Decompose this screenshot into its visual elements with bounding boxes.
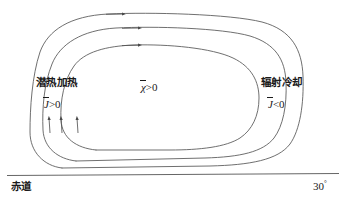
label-center-chi: χ>0 [141,81,158,94]
latent-heating-symbol: J [44,98,49,111]
middle-streamline [43,27,286,161]
degree-sign: ° [324,179,327,187]
label-latent-heating: 潜热加热 [36,76,78,88]
label-equator: 赤道 [11,180,32,192]
label-radiative-cooling: 辐射冷却 [261,76,303,88]
radiative-cooling-relation: <0 [273,98,285,110]
arrow-up-middle-icon [61,118,62,133]
thirty-degrees-value: 30 [313,180,324,192]
label-thirty-degrees: 30° [313,179,327,192]
hadley-cell-diagram: 潜热加热 J>0 辐射冷却 J<0 χ>0 赤道 30° [0,0,347,203]
chi-symbol: χ [141,81,146,94]
radiative-cooling-symbol: J [268,98,273,111]
chi-relation: >0 [146,81,158,93]
arrow-up-inner-icon [77,118,78,133]
latent-heating-relation: >0 [49,98,61,110]
baseline-axis [7,174,339,176]
label-radiative-cooling-value: J<0 [268,98,285,111]
outer-streamline [30,13,303,168]
label-latent-heating-value: J>0 [44,98,61,111]
arrow-up-outer-icon [49,118,50,133]
arrow-right-inner-icon [122,45,140,46]
inner-streamline [61,45,259,150]
